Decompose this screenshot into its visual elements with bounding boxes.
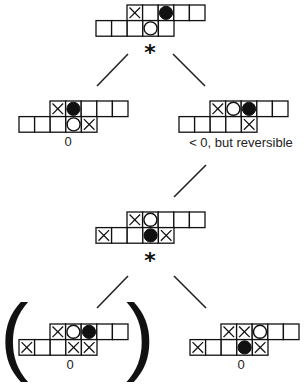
board-label: < 0, but reversible [189,135,293,150]
board-cell [174,212,190,228]
board-cell [35,340,51,356]
board-right-child [179,101,288,132]
hollow-stone [254,325,267,338]
board-cell [226,117,242,133]
board-reversed-position [96,212,205,243]
board-cell [127,228,143,244]
board-cell [19,117,35,133]
board-cell [97,101,113,117]
tree-edge [174,165,206,197]
tree-edge [97,276,128,308]
board-cell [174,5,190,21]
tree-edge [173,54,205,86]
board-cell [112,101,128,117]
board-cell [257,101,273,117]
board-cell [268,324,284,340]
board-cell [97,324,113,340]
black-stone [67,102,80,115]
board-cell [283,324,299,340]
board-left-child [19,101,128,132]
board-bottom-left [19,324,128,355]
hollow-stone [144,213,157,226]
board-group [19,5,299,355]
game-tree-diagram: *0< 0, but reversible*00 ( ) [0,0,307,389]
black-stone [159,6,172,19]
board-cell [189,5,205,21]
board-cell [112,228,128,244]
board-cell [143,5,159,21]
star-marker: * [144,248,156,273]
board-cell [221,340,237,356]
hollow-stone [67,118,80,131]
hollow-stone [67,325,80,338]
board-cell [158,212,174,228]
board-cell [50,117,66,133]
board-cell [189,212,205,228]
black-stone [242,102,255,115]
black-stone [238,341,251,354]
star-marker: * [144,40,156,65]
board-cell [50,340,66,356]
black-stone [144,229,157,242]
board-bottom-right [190,324,299,355]
board-label: 0 [237,357,244,372]
close-parenthesis: ) [126,286,155,382]
board-cell [206,340,222,356]
board-label: 0 [64,134,71,149]
board-cell [195,117,211,133]
tree-edge [174,276,206,308]
board-cell [35,117,51,133]
board-cell [127,21,143,37]
board-cell [272,101,288,117]
board-root [96,5,205,36]
board-cell [210,117,226,133]
label-group: *0< 0, but reversible*00 [64,40,292,372]
board-cell [96,21,112,37]
board-cell [179,117,195,133]
open-parenthesis: ( [0,286,29,382]
tree-edge [97,54,128,86]
black-stone [82,325,95,338]
board-label: 0 [66,357,73,372]
board-cell [81,101,97,117]
hollow-stone [227,102,240,115]
board-cell [158,21,174,37]
hollow-stone [144,22,157,35]
board-cell [112,21,128,37]
